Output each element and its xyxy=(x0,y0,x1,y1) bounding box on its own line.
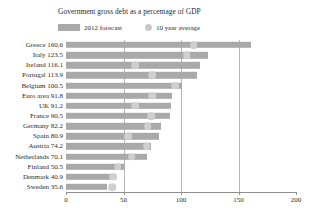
bar xyxy=(66,82,182,88)
plot-area xyxy=(66,40,296,192)
bar xyxy=(66,72,197,78)
x-axis-tick-label: 200 xyxy=(291,196,302,204)
y-axis-tick-label: France 90.5 xyxy=(30,112,63,120)
legend-bar-swatch-icon xyxy=(58,24,80,31)
y-axis-tick-label: Belgium 100.5 xyxy=(21,82,63,90)
bar xyxy=(66,133,159,139)
legend-item-forecast: 2012 forecast xyxy=(58,24,122,32)
average-marker-icon xyxy=(109,173,117,181)
bar xyxy=(66,184,107,190)
average-marker-icon xyxy=(144,122,152,130)
y-axis-tick-label: Spain 80.9 xyxy=(33,132,63,140)
y-axis-tick-label: Euro area 91.8 xyxy=(22,92,63,100)
x-axis-tick xyxy=(181,192,182,195)
x-axis-tick xyxy=(296,192,297,195)
legend-item-average: 10 year average xyxy=(145,24,200,32)
y-axis-tick-label: UK 91.2 xyxy=(39,102,63,110)
bar xyxy=(66,42,251,48)
average-marker-icon xyxy=(148,92,156,100)
average-marker-icon xyxy=(128,153,136,161)
y-axis-tick-label: Greece 160.6 xyxy=(26,41,63,49)
chart-page: Government gross debt as a percentage of… xyxy=(0,0,314,217)
x-axis-tick-label: 0 xyxy=(64,196,68,204)
legend-circle-swatch-icon xyxy=(145,24,152,31)
x-axis-tick xyxy=(124,192,125,195)
x-axis-tick xyxy=(66,192,67,195)
average-marker-icon xyxy=(171,82,179,90)
gridline xyxy=(239,40,240,192)
y-axis-tick-label: Portugal 113.9 xyxy=(22,71,63,79)
average-marker-icon xyxy=(108,183,116,191)
x-axis-tick-label: 50 xyxy=(120,196,127,204)
average-marker-icon xyxy=(190,41,198,49)
average-marker-icon xyxy=(114,163,122,171)
bar xyxy=(66,103,171,109)
y-axis-tick-label: Finland 50.5 xyxy=(28,163,63,171)
legend-label-forecast: 2012 forecast xyxy=(84,24,122,32)
y-axis-tick-label: Ireland 116.1 xyxy=(26,61,63,69)
y-axis-tick-label: Italy 123.5 xyxy=(33,51,63,59)
y-axis-labels: Greece 160.6Italy 123.5Ireland 116.1Port… xyxy=(0,40,63,192)
average-marker-icon xyxy=(131,62,139,70)
average-marker-icon xyxy=(148,72,156,80)
y-axis-tick-label: Austria 74.2 xyxy=(28,142,63,150)
x-axis-tick-label: 100 xyxy=(176,196,187,204)
bar xyxy=(66,174,113,180)
chart-title: Government gross debt as a percentage of… xyxy=(58,7,201,16)
y-axis-tick-label: Denmark 40.9 xyxy=(23,173,63,181)
y-axis-tick-label: Sweden 35.6 xyxy=(27,183,63,191)
average-marker-icon xyxy=(147,112,155,120)
legend-label-average: 10 year average xyxy=(156,24,200,32)
average-marker-icon xyxy=(124,132,132,140)
x-axis-tick xyxy=(239,192,240,195)
y-axis-tick-label: Germany 82.2 xyxy=(23,122,63,130)
bar xyxy=(66,143,151,149)
chart-legend: 2012 forecast 10 year average xyxy=(58,22,200,33)
average-marker-icon xyxy=(183,51,191,59)
y-axis-tick-label: Netherlands 70.1 xyxy=(15,153,63,161)
average-marker-icon xyxy=(131,102,139,110)
x-axis-tick-label: 150 xyxy=(233,196,244,204)
average-marker-icon xyxy=(143,143,151,151)
